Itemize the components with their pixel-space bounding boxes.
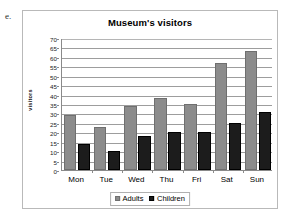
- chart-frame: Museum's visitors visitors 0510152025303…: [22, 10, 278, 209]
- bar-group: [124, 39, 151, 170]
- y-axis-tick-label: 50: [50, 73, 57, 80]
- x-axis-tick-label: Mon: [68, 175, 84, 184]
- y-axis-tick-label: 45: [50, 83, 57, 90]
- x-axis-tick: [183, 170, 184, 173]
- chart-figure: e. Museum's visitors visitors 0510152025…: [0, 0, 284, 219]
- bar-group: [184, 39, 211, 170]
- bar-adults-mon: [64, 115, 77, 170]
- x-axis-tick-label: Sun: [250, 175, 264, 184]
- bar-adults-fri: [184, 104, 197, 170]
- y-axis-tick-label: 55: [50, 64, 57, 71]
- x-axis-tick-label: Thu: [160, 175, 174, 184]
- x-axis-tick-label: Fri: [192, 175, 201, 184]
- x-axis-tick-labels: MonTueWedThuFriSatSun: [61, 175, 272, 189]
- y-axis-tick: [57, 77, 59, 78]
- legend-item-adults: Adults: [115, 194, 143, 203]
- y-axis-tick: [57, 96, 59, 97]
- children-swatch-icon: [149, 196, 154, 201]
- bar-children-tue: [108, 151, 121, 170]
- bar-adults-sun: [245, 51, 258, 170]
- y-axis-tick: [57, 105, 59, 106]
- bar-adults-tue: [94, 127, 107, 170]
- y-axis-tick: [57, 114, 59, 115]
- legend-label-children: Children: [157, 194, 185, 203]
- bar-group: [245, 39, 272, 170]
- x-axis-tick: [152, 170, 153, 173]
- y-axis-tick-label: 35: [50, 102, 57, 109]
- x-axis-tick-label: Tue: [99, 175, 113, 184]
- y-axis-tick: [57, 162, 59, 163]
- bar-group: [215, 39, 242, 170]
- y-axis-tick: [57, 133, 59, 134]
- x-axis-tick: [92, 170, 93, 173]
- legend-label-adults: Adults: [123, 194, 144, 203]
- plot-area: [61, 39, 272, 171]
- bar-group: [64, 39, 91, 170]
- y-axis-title: visitors: [27, 80, 33, 120]
- bar-children-sun: [259, 112, 272, 170]
- chart-legend: Adults Children: [110, 192, 190, 206]
- y-axis-tick: [57, 58, 59, 59]
- y-axis-tick-label: 65: [50, 45, 57, 52]
- bar-adults-thu: [154, 98, 167, 170]
- bar-children-wed: [138, 136, 151, 170]
- legend-item-children: Children: [149, 194, 184, 203]
- bar-children-thu: [168, 132, 181, 170]
- bar-series-container: [62, 39, 272, 170]
- x-axis-tick: [122, 170, 123, 173]
- bar-children-fri: [198, 132, 211, 170]
- y-axis-tick-label: 70: [50, 36, 57, 43]
- y-axis-tick-label: 25: [50, 120, 57, 127]
- bar-children-mon: [78, 144, 91, 170]
- y-axis-tick: [57, 48, 59, 49]
- y-axis-tick: [57, 67, 59, 68]
- x-axis-tick-label: Wed: [128, 175, 144, 184]
- y-axis-tick-label: 60: [50, 54, 57, 61]
- adults-swatch-icon: [115, 196, 120, 201]
- y-axis-tick: [57, 39, 59, 40]
- y-axis-tick-label: 10: [50, 149, 57, 156]
- y-axis-tick: [57, 152, 59, 153]
- y-axis-tick-label: 20: [50, 130, 57, 137]
- bar-adults-sat: [215, 63, 228, 170]
- bar-group: [154, 39, 181, 170]
- y-axis-tick: [57, 86, 59, 87]
- bar-group: [94, 39, 121, 170]
- x-axis-tick-label: Sat: [221, 175, 233, 184]
- chart-title: Museum's visitors: [23, 17, 277, 28]
- y-axis-tick-label: 40: [50, 92, 57, 99]
- y-axis-tick: [57, 124, 59, 125]
- y-axis-tick-labels: 0510152025303540455055606570: [35, 39, 59, 171]
- bar-adults-wed: [124, 106, 137, 170]
- x-axis-tick: [243, 170, 244, 173]
- y-axis-tick-label: 15: [50, 139, 57, 146]
- x-axis-tick: [213, 170, 214, 173]
- y-axis-tick: [57, 171, 59, 172]
- y-axis-tick: [57, 143, 59, 144]
- item-letter: e.: [5, 11, 11, 21]
- bar-children-sat: [229, 123, 242, 170]
- y-axis-tick-label: 30: [50, 111, 57, 118]
